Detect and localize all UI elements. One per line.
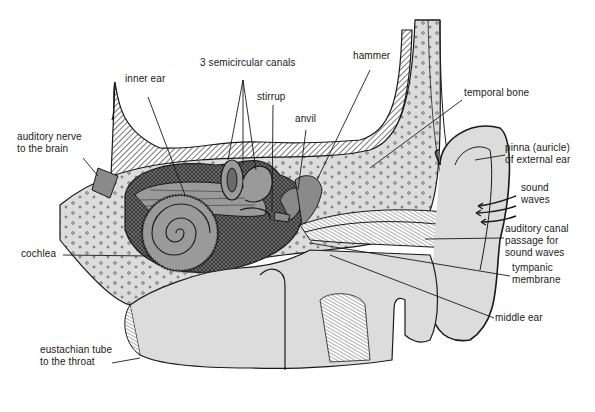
label-auditory-nerve: auditory nerve — [17, 131, 82, 143]
label-pinna-line2: of external ear — [505, 154, 570, 166]
label-inner-ear: inner ear — [125, 73, 165, 85]
label-tympanic-membrane: tympanic — [512, 262, 553, 274]
label-auditory-canal-line3: sound waves — [505, 247, 564, 259]
label-stirrup: stirrup — [257, 91, 285, 103]
label-eustachian-tube-line2: to the throat — [40, 356, 95, 368]
label-semicircular-canals: 3 semicircular canals — [200, 57, 295, 69]
label-tympanic-membrane-line2: membrane — [512, 274, 561, 286]
label-auditory-canal-line2: passage for — [505, 235, 558, 247]
label-eustachian-tube: eustachian tube — [40, 344, 112, 356]
ear-anatomy-diagram: 3 semicircular canals hammer inner ear s… — [0, 0, 595, 412]
label-sound-waves-line2: waves — [521, 194, 550, 206]
cochlea-spiral — [142, 195, 218, 271]
label-temporal-bone: temporal bone — [464, 87, 529, 99]
label-sound-waves: sound — [521, 182, 549, 194]
label-anvil: anvil — [295, 113, 316, 125]
label-pinna: pinna (auricle) — [505, 142, 570, 154]
label-auditory-nerve-line2: to the brain — [17, 143, 68, 155]
label-cochlea: cochlea — [21, 248, 56, 260]
label-auditory-canal: auditory canal — [505, 223, 569, 235]
label-middle-ear: middle ear — [495, 312, 543, 324]
label-hammer: hammer — [353, 50, 390, 62]
